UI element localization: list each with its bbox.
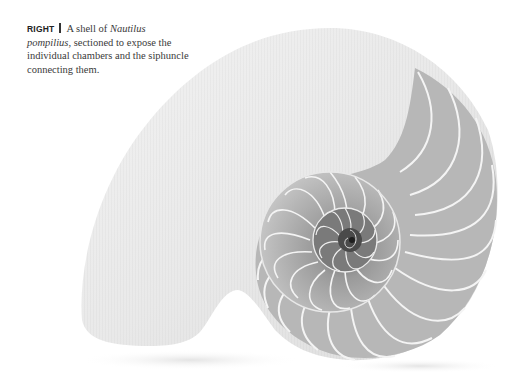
- nautilus-shell-image: [0, 0, 518, 372]
- shell-reflection: [80, 350, 300, 370]
- shell-reflection: [340, 359, 500, 372]
